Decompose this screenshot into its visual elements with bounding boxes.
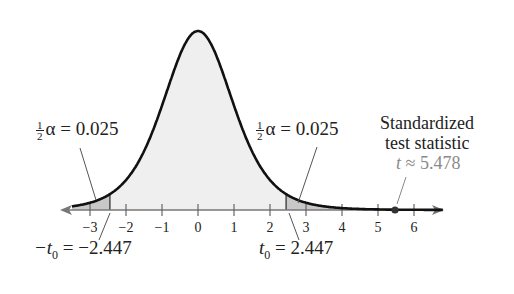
left-tail-leader bbox=[80, 148, 96, 200]
right-rejection-region bbox=[286, 194, 443, 210]
x-tick-label: 3 bbox=[303, 220, 310, 236]
statistic-value: t ≈ 5.478 bbox=[396, 153, 460, 174]
test-statistic-point bbox=[391, 206, 398, 213]
statistic-title-line1: Standardized bbox=[380, 113, 474, 134]
x-tick-label: 2 bbox=[267, 220, 274, 236]
right-tail-leader bbox=[298, 147, 317, 203]
x-tick-label: −3 bbox=[83, 220, 98, 236]
right-critical-leader bbox=[289, 213, 299, 240]
right-tail-label: 12α = 0.025 bbox=[256, 118, 338, 141]
statistic-title-line2: test statistic bbox=[385, 133, 470, 154]
x-tick-label: 4 bbox=[339, 220, 346, 236]
left-critical-value-label: −t0 = −2.447 bbox=[34, 237, 132, 263]
x-tick-label: −2 bbox=[119, 220, 134, 236]
x-tick-label: 6 bbox=[411, 220, 418, 236]
left-critical-leader bbox=[99, 213, 110, 240]
left-tail-label: 12α = 0.025 bbox=[36, 118, 118, 141]
x-tick-label: 5 bbox=[375, 220, 382, 236]
statistic-leader bbox=[397, 177, 406, 204]
x-tick-label: 1 bbox=[231, 220, 238, 236]
x-tick-label: −1 bbox=[155, 220, 170, 236]
x-tick-label: 0 bbox=[195, 220, 202, 236]
right-critical-value-label: t0 = 2.447 bbox=[259, 237, 333, 263]
